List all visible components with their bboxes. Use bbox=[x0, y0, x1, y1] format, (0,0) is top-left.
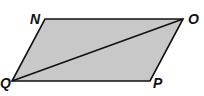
vertex-label-N: N bbox=[30, 11, 41, 27]
vertex-label-Q: Q bbox=[0, 75, 11, 91]
parallelogram-diagram: N O P Q bbox=[0, 0, 204, 96]
vertex-label-O: O bbox=[188, 11, 199, 27]
vertex-label-P: P bbox=[153, 75, 163, 91]
